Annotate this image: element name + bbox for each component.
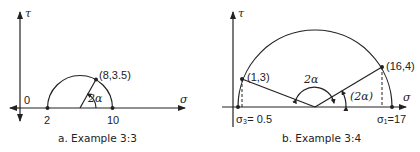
angle-arc-2alpha <box>296 87 334 103</box>
sigma-axis-label: σ <box>180 93 188 106</box>
angle-label-paren-2alpha: (2α) <box>350 90 373 103</box>
label-10: 10 <box>107 114 119 126</box>
point-2 <box>46 106 50 110</box>
caption-b: b. Example 3:4 <box>282 132 361 144</box>
label-1-3: (1,3) <box>247 71 270 83</box>
label-sigma3: σ₃= 0.5 <box>236 113 272 125</box>
origin-label: 0 <box>24 94 30 106</box>
tau-axis-label: τ <box>238 7 245 20</box>
angle-label: 2α <box>87 92 103 105</box>
sigma-axis-label: σ <box>403 91 411 104</box>
mohr-circle-figure: τ σ 0 2α 2 10 (8,3.5) a. Example 3:3 τ σ <box>0 0 420 152</box>
point-8-3.5 <box>94 78 98 82</box>
point-16-4 <box>380 65 384 69</box>
point-sigma1 <box>390 105 394 109</box>
point-sigma3 <box>236 105 240 109</box>
label-sigma1: σ₁=17 <box>377 113 406 125</box>
label-8-3.5: (8,3.5) <box>99 69 131 81</box>
panel-a: τ σ 0 2α 2 10 (8,3.5) a. Example 3:3 <box>10 7 188 144</box>
angle-label-2alpha: 2α <box>303 73 319 86</box>
point-10 <box>111 106 115 110</box>
panel-b: τ σ 2α (2α) σ₃= 0.5 σ₁=17 (1,3) (16,4) b… <box>222 7 415 144</box>
label-16-4: (16,4) <box>386 60 415 72</box>
point-1-3 <box>240 77 244 81</box>
tau-axis-label: τ <box>25 7 32 20</box>
caption-a: a. Example 3:3 <box>58 132 137 144</box>
label-2: 2 <box>44 114 50 126</box>
angle-arc-paren-2alpha <box>342 91 346 107</box>
